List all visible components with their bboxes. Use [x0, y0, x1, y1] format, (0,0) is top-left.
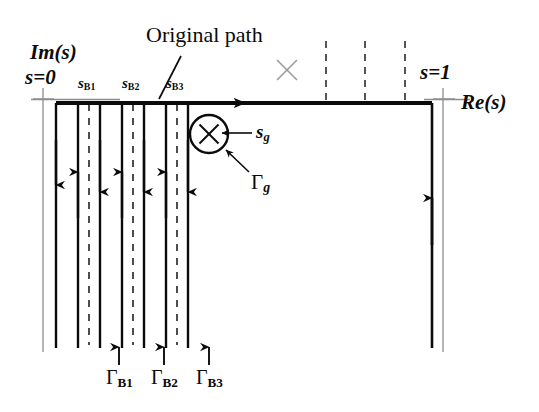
pole-contour-circle-group [190, 115, 228, 153]
branch-point-label-1-sub: B1 [84, 81, 96, 92]
branch-point-label-2-sub: B2 [128, 81, 140, 92]
upper-dashed-branch-lines [326, 41, 405, 101]
branch-point-label-3-sub: B3 [172, 81, 184, 92]
branch-contour-label-3: ΓB3 [196, 367, 223, 389]
branch-contour-label-3-sub: B3 [208, 375, 223, 390]
branch-contour-label-2-sub: B2 [163, 375, 178, 390]
pole-point-label-sub: g [263, 130, 269, 144]
branch-contour-label-1-base: Γ [106, 366, 118, 388]
pole-cross-marker [277, 60, 297, 80]
contour-integration-figure: Im(s) s=0 s=1 Re(s) Original path sB1 sB… [0, 0, 539, 412]
annotation-leader-lines [159, 56, 252, 172]
real-axis-label: Re(s) [461, 92, 507, 113]
pole-contour-leader [226, 150, 249, 172]
branch-contour-label-1: ΓB1 [106, 367, 133, 389]
branch-contour-label-2: ΓB2 [151, 367, 178, 389]
axis-guide-lines [31, 88, 470, 352]
branch-point-label-3: sB3 [166, 76, 183, 92]
pole-contour-label-sub: g [263, 180, 270, 195]
complex-plane-contour-svg [0, 0, 539, 412]
branch-contour-label-3-base: Γ [196, 366, 208, 388]
contour-up-legs [78, 103, 166, 348]
branch-contour-indicator-arrows [119, 347, 209, 365]
original-path-annotation: Original path [146, 24, 263, 46]
pole-contour-label-base: Γ [251, 170, 263, 194]
pole-contour-label: Γg [251, 172, 270, 195]
pole-point-label: sg [256, 122, 270, 143]
branch-contour-label-1-sub: B1 [118, 375, 133, 390]
branch-point-label-1: sB1 [78, 76, 95, 92]
origin-label: s=0 [25, 67, 56, 88]
imaginary-axis-label: Im(s) [30, 42, 77, 63]
unit-point-label: s=1 [420, 62, 451, 83]
branch-contour-label-2-base: Γ [151, 366, 163, 388]
branch-point-label-2: sB2 [122, 76, 139, 92]
branch-cut-dashed-lines [89, 104, 177, 345]
